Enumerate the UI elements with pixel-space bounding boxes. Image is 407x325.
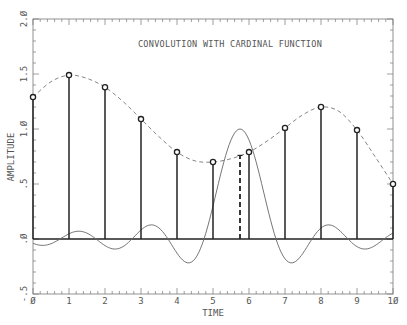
y-tick-label: 1.5 <box>19 66 29 82</box>
y-tick-label: 2.Ø <box>19 10 29 27</box>
sample-point <box>318 104 323 109</box>
axis-ticks <box>33 19 393 294</box>
y-axis-label: AMPLITUDE <box>6 133 16 182</box>
x-tick-label: 3 <box>138 296 143 306</box>
sample-point <box>246 150 251 155</box>
sample-point <box>138 117 143 122</box>
y-tick-label: .Ø <box>19 233 29 244</box>
sample-point <box>282 125 287 130</box>
x-tick-labels: Ø1234567891Ø <box>30 296 399 306</box>
sample-point <box>174 150 179 155</box>
sample-stem <box>282 125 287 239</box>
chart: -.5.Ø.51.Ø1.52.Ø Ø1234567891Ø CONVOLUTIO… <box>0 0 407 325</box>
sample-point <box>102 85 107 90</box>
x-tick-label: Ø <box>30 296 36 306</box>
y-tick-labels: -.5.Ø.51.Ø1.52.Ø <box>19 10 29 302</box>
sample-stem <box>354 128 359 239</box>
y-tick-label: -.5 <box>19 286 29 302</box>
sample-stem <box>66 73 71 240</box>
sample-point <box>354 128 359 133</box>
y-tick-label: .5 <box>19 179 29 190</box>
sample-point <box>390 181 395 186</box>
sample-stem <box>318 104 323 239</box>
x-tick-label: 8 <box>318 296 323 306</box>
sample-point <box>66 73 71 78</box>
x-tick-label: 1 <box>66 296 71 306</box>
sample-stem <box>138 117 143 240</box>
sample-stem <box>390 181 395 239</box>
y-tick-label: 1.Ø <box>19 120 29 137</box>
x-tick-label: 5 <box>210 296 215 306</box>
interpolated-stem <box>238 155 243 239</box>
x-tick-label: 9 <box>354 296 359 306</box>
x-tick-label: 4 <box>174 296 179 306</box>
sample-point <box>30 95 35 100</box>
x-tick-label: 7 <box>282 296 287 306</box>
sample-stem <box>246 150 251 240</box>
sample-stem <box>174 150 179 240</box>
sample-stems <box>30 73 395 240</box>
x-axis-label: TIME <box>202 308 224 318</box>
plot-frame <box>33 19 393 294</box>
x-tick-label: 2 <box>102 296 107 306</box>
sample-point <box>210 159 215 164</box>
x-tick-label: 1Ø <box>388 296 399 306</box>
sample-stem <box>102 85 107 239</box>
x-tick-label: 6 <box>246 296 251 306</box>
chart-title: CONVOLUTION WITH CARDINAL FUNCTION <box>138 39 322 49</box>
